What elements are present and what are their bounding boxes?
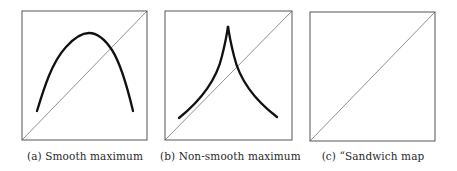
sandwich-upper-branch-render [307, 27, 339, 118]
sandwich-upper-curve-final [304, 27, 339, 118]
panel-c-identity-diagonal [310, 12, 435, 141]
sandwich-upper-branch-main [323, 27, 339, 118]
sandwich-upper-branch-visible [309, 26, 339, 118]
sandwich-upper-branch-curve-d [294, 26, 339, 115]
caption-smooth-maximum: (a) Smooth maximum [22, 150, 148, 162]
sandwich-upper [323, 26, 339, 118]
sandwich-upper-branch-curve-real [323, 26, 339, 118]
sandwich-left-curve [304, 27, 339, 118]
non-smooth-maximum-curve [179, 26, 277, 118]
sandwich-upper-branch-final [307, 26, 339, 118]
sandwich-upper-branch-curve-line [308, 26, 339, 118]
sandwich-above-diagonal-curve [307, 27, 339, 118]
caption-sandwich-map: (c) “Sandwich map [310, 150, 436, 162]
sandwich-upper-branch-curve-visible [307, 26, 339, 118]
sandwich-upper-curve-render [306, 27, 339, 118]
caption-non-smooth-maximum: (b) Non-smooth maximum [160, 150, 300, 162]
smooth-maximum-curve [37, 33, 133, 111]
panel-a-smooth-maximum [22, 11, 147, 140]
sandwich-upper-branch-curve-shape [323, 26, 339, 118]
sandwich-upper-branch-stroke [323, 27, 339, 118]
sandwich-upper-line [323, 26, 339, 118]
sandwich-upper-branch [310, 27, 339, 118]
panel-a-identity-diagonal [22, 11, 147, 140]
sandwich-upper-branch-curve-drawn [307, 26, 339, 118]
sandwich-upper-branch-used [308, 26, 339, 118]
sandwich-upper-curve [307, 27, 339, 118]
figure-canvas [0, 0, 457, 171]
sandwich-upper-branch-drawn [308, 27, 339, 118]
sandwich-upper-branch-path [306, 26, 339, 118]
sandwich-upper-branch-curve-stroke [311, 26, 339, 118]
sandwich-upper-branch-curve-main [308, 26, 339, 118]
sandwich-upper-curve-shown [315, 26, 339, 118]
sandwich-upper-branch-stroked [316, 26, 339, 118]
panel-b-non-smooth-maximum [165, 11, 292, 140]
sandwich-upper-curve-visible [308, 26, 339, 118]
sandwich-upper-branch-curve [307, 26, 339, 118]
sandwich-upper-branch-line [323, 27, 339, 118]
panel-c-sandwich-map [294, 12, 435, 141]
sandwich-above-diagonal-branch [311, 26, 339, 118]
sandwich-upper-branch-curve-a [303, 26, 339, 118]
sandwich-upper-branch-curve-proper [309, 26, 339, 118]
sandwich-upper-branch-curve-c [302, 26, 339, 111]
